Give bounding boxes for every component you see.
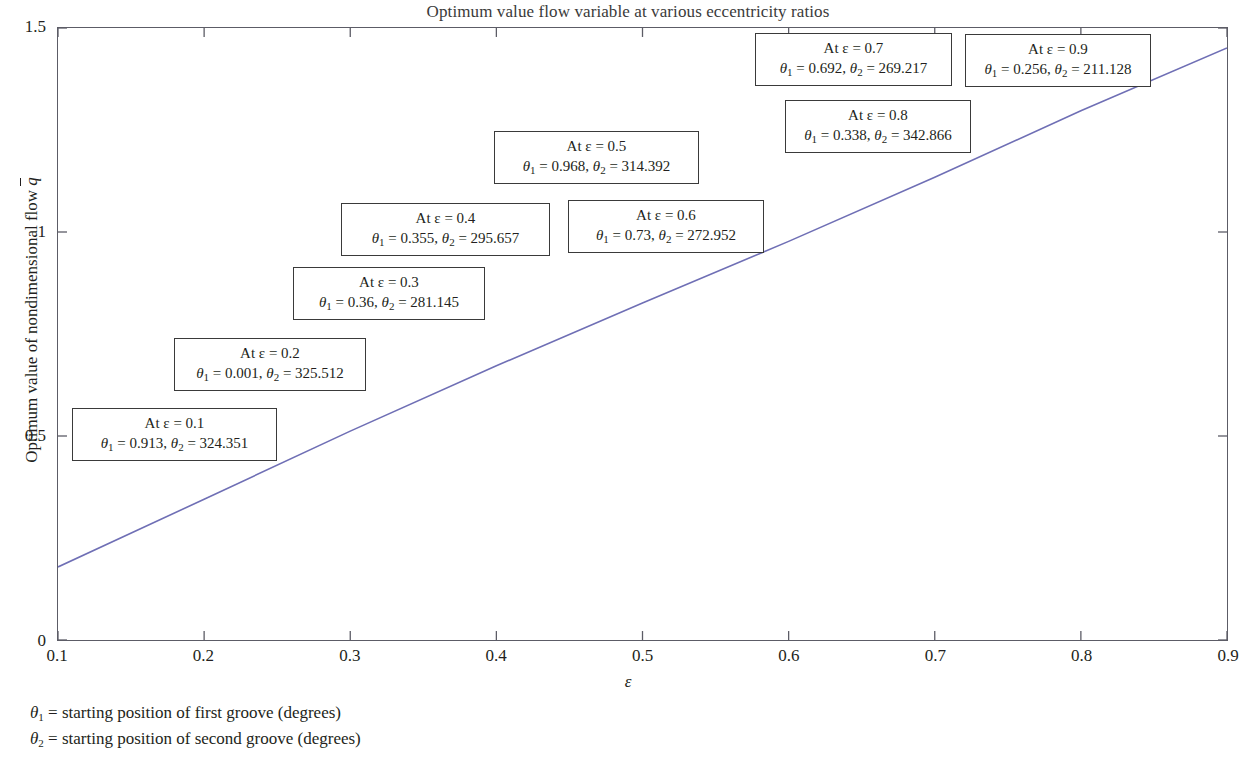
theta1-value: 0.355: [401, 230, 435, 246]
x-tick-label: 0.9: [1198, 646, 1256, 666]
annotation-eps-line: At ε = 0.3: [303, 273, 475, 293]
x-tick-label: 0.8: [1052, 646, 1112, 666]
annotation-box-eps-0-1: At ε = 0.1θ1 = 0.913, θ2 = 324.351: [72, 408, 277, 461]
x-tick-label: 0.4: [466, 646, 526, 666]
x-tick-label: 0.2: [173, 646, 233, 666]
theta1-value: 0.73: [625, 227, 651, 243]
theta1-value: 0.001: [225, 365, 259, 381]
theta2-value: 211.128: [1083, 61, 1131, 77]
theta1-value: 0.256: [1013, 61, 1047, 77]
annotation-theta-line: θ1 = 0.256, θ2 = 211.128: [975, 60, 1141, 81]
annotation-eps-line: At ε = 0.8: [795, 106, 961, 126]
annotation-box-eps-0-9: At ε = 0.9θ1 = 0.256, θ2 = 211.128: [965, 34, 1151, 87]
footnote-item: θ2 = starting position of second groove …: [30, 726, 361, 752]
annotation-theta-line: θ1 = 0.001, θ2 = 325.512: [184, 364, 356, 385]
theta2-value: 314.392: [622, 158, 671, 174]
chart-figure: Optimum value flow variable at various e…: [0, 0, 1256, 775]
footnote-block: θ1 = starting position of first groove (…: [30, 700, 361, 753]
theta2-value: 281.145: [410, 294, 459, 310]
annotation-theta-line: θ1 = 0.73, θ2 = 272.952: [578, 226, 754, 247]
annotation-eps-line: At ε = 0.6: [578, 206, 754, 226]
annotation-theta-line: θ1 = 0.36, θ2 = 281.145: [303, 293, 475, 314]
annotation-box-eps-0-4: At ε = 0.4θ1 = 0.355, θ2 = 295.657: [341, 203, 550, 256]
annotation-eps-line: At ε = 0.1: [82, 414, 267, 434]
y-axis-title: Optimum value of nondimensional flow q: [22, 0, 42, 650]
theta1-value: 0.968: [552, 158, 586, 174]
annotation-box-eps-0-8: At ε = 0.8θ1 = 0.338, θ2 = 342.866: [785, 100, 971, 153]
theta2-value: 342.866: [903, 127, 952, 143]
theta1-value: 0.913: [130, 435, 164, 451]
annotation-theta-line: θ1 = 0.968, θ2 = 314.392: [504, 157, 689, 178]
theta2-value: 295.657: [471, 230, 520, 246]
footnote-item: θ1 = starting position of first groove (…: [30, 700, 361, 726]
annotation-box-eps-0-3: At ε = 0.3θ1 = 0.36, θ2 = 281.145: [293, 267, 485, 320]
annotation-eps-line: At ε = 0.5: [504, 137, 689, 157]
x-tick-label: 0.7: [905, 646, 965, 666]
annotation-theta-line: θ1 = 0.692, θ2 = 269.217: [765, 59, 942, 80]
annotation-eps-line: At ε = 0.2: [184, 344, 356, 364]
annotation-box-eps-0-7: At ε = 0.7θ1 = 0.692, θ2 = 269.217: [755, 33, 952, 86]
annotation-eps-line: At ε = 0.7: [765, 39, 942, 59]
theta2-value: 272.952: [687, 227, 736, 243]
theta2-value: 325.512: [295, 365, 344, 381]
x-axis-title: ε: [0, 672, 1256, 692]
annotation-theta-line: θ1 = 0.338, θ2 = 342.866: [795, 126, 961, 147]
footnote-text: = starting position of second groove (de…: [44, 729, 361, 748]
footnote-text: = starting position of first groove (deg…: [44, 703, 341, 722]
annotation-eps-line: At ε = 0.4: [351, 209, 540, 229]
x-tick-label: 0.5: [613, 646, 673, 666]
x-tick-label: 0.3: [320, 646, 380, 666]
x-tick-label: 0.6: [759, 646, 819, 666]
annotation-eps-line: At ε = 0.9: [975, 40, 1141, 60]
annotation-theta-line: θ1 = 0.355, θ2 = 295.657: [351, 229, 540, 250]
theta2-value: 324.351: [200, 435, 249, 451]
theta1-value: 0.338: [833, 127, 867, 143]
theta1-value: 0.36: [348, 294, 374, 310]
annotation-box-eps-0-2: At ε = 0.2θ1 = 0.001, θ2 = 325.512: [174, 338, 366, 391]
theta2-value: 269.217: [879, 60, 928, 76]
annotation-theta-line: θ1 = 0.913, θ2 = 324.351: [82, 434, 267, 455]
annotation-box-eps-0-5: At ε = 0.5θ1 = 0.968, θ2 = 314.392: [494, 131, 699, 184]
theta1-value: 0.692: [809, 60, 843, 76]
annotation-box-eps-0-6: At ε = 0.6θ1 = 0.73, θ2 = 272.952: [568, 200, 764, 253]
